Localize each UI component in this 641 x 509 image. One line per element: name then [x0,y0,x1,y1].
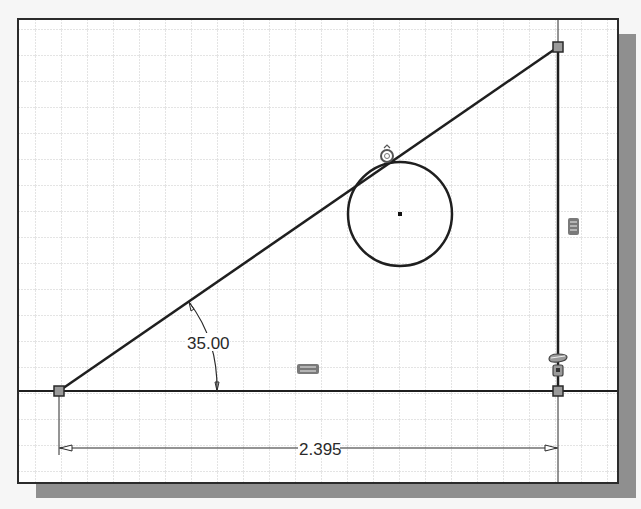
point-bottom-right[interactable] [553,386,563,396]
perpendicular-constraint-icon[interactable] [549,354,567,362]
point-bottom-left[interactable] [54,386,64,396]
linear-dimension-label[interactable]: 2.395 [299,440,342,459]
point-top-right[interactable] [553,42,563,52]
horizontal-constraint-icon[interactable] [297,364,319,374]
sketch-grid [19,20,617,482]
angle-dimension-label[interactable]: 35.00 [187,334,230,353]
coincident-constraint-icon[interactable] [553,365,563,376]
circle-center-point[interactable] [398,212,402,216]
sketch-canvas[interactable]: 35.00 2.395 [0,0,641,509]
vertical-constraint-icon[interactable] [568,218,579,235]
